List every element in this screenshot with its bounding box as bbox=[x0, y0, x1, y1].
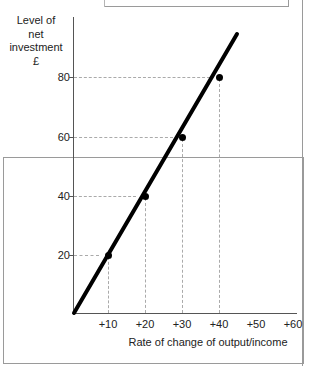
page-frame-right-edge bbox=[302, 0, 303, 366]
x-tick-label-60: +60 bbox=[275, 319, 311, 330]
x-axis-title: Rate of change of output/income bbox=[113, 336, 303, 348]
y-tick-label-80: 80 bbox=[44, 72, 70, 83]
x-axis-line bbox=[73, 313, 297, 314]
y-axis-title-line-2: net bbox=[4, 28, 68, 42]
gridline-h-20 bbox=[74, 255, 99, 256]
gridline-v-30 bbox=[182, 139, 183, 313]
page-frame-top-left-cap bbox=[104, 0, 105, 7]
y-axis-title-line-3: investment bbox=[4, 41, 68, 55]
y-tick-label-40: 40 bbox=[44, 191, 70, 202]
x-tick-label-20: +20 bbox=[127, 319, 163, 330]
data-point-40-80 bbox=[216, 74, 223, 81]
page-frame-top-edge bbox=[104, 6, 289, 7]
x-tick-label-50: +50 bbox=[238, 319, 274, 330]
gridline-v-20 bbox=[145, 198, 146, 313]
data-point-30-60 bbox=[179, 134, 186, 141]
y-axis-title-line-1: Level of bbox=[4, 14, 68, 28]
page-frame-top-right-cap bbox=[288, 0, 289, 7]
gridline-v-40 bbox=[219, 79, 220, 313]
gridline-v-10 bbox=[108, 257, 109, 313]
data-point-20-40 bbox=[142, 193, 149, 200]
gridline-h-80 bbox=[74, 77, 210, 78]
y-axis-title: Level of net investment £ bbox=[4, 14, 68, 68]
x-tick-label-10: +10 bbox=[90, 319, 126, 330]
gridline-h-40 bbox=[74, 196, 136, 197]
gridline-h-60 bbox=[74, 137, 173, 138]
x-tick-label-40: +40 bbox=[201, 319, 237, 330]
chart-figure: Level of net investment £ 80 60 40 20 +1… bbox=[0, 0, 313, 366]
y-tick-label-60: 60 bbox=[44, 132, 70, 143]
x-tick-label-30: +30 bbox=[164, 319, 200, 330]
y-axis-line bbox=[73, 17, 74, 314]
y-axis-title-line-4: £ bbox=[4, 55, 68, 69]
y-tick-label-20: 20 bbox=[44, 250, 70, 261]
data-point-10-20 bbox=[105, 252, 112, 259]
figure-box-top-border bbox=[3, 157, 303, 158]
